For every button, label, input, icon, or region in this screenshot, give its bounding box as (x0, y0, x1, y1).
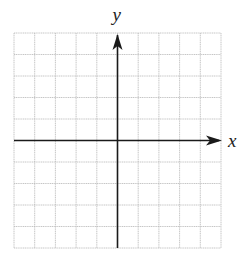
coordinate-plane: x y (0, 0, 242, 261)
y-axis-label: y (111, 4, 122, 25)
x-axis-label: x (227, 130, 237, 151)
